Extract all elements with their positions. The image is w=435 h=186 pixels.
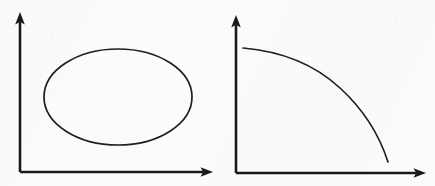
decreasing-curve (243, 48, 388, 162)
closed-curve-svg (0, 0, 218, 186)
panel-closed-curve (0, 0, 218, 186)
decreasing-curve-svg (218, 0, 435, 186)
ellipse-curve (44, 49, 192, 145)
panel-decreasing-curve (218, 0, 435, 186)
figure-canvas (0, 0, 435, 186)
